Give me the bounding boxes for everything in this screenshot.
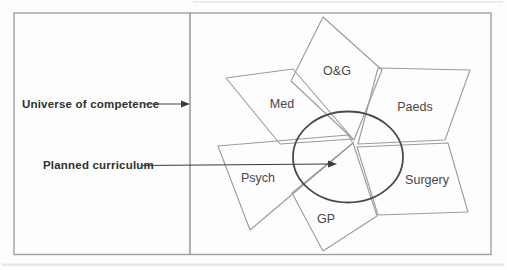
scan-artifact-bottom: [2, 264, 504, 266]
curriculum-arrow-head-icon: [328, 161, 337, 168]
figure-canvas: O&G Med Paeds Psych Surgery GP Universe …: [0, 0, 507, 270]
curriculum-arrow-line: [141, 164, 329, 166]
shape-oandg: [291, 17, 382, 140]
shape-label-gp: GP: [317, 212, 335, 226]
competence-diagram: O&G Med Paeds Psych Surgery GP Universe …: [0, 0, 507, 270]
curriculum-annotation: Planned curriculum: [43, 159, 154, 171]
shape-label-surgery: Surgery: [405, 173, 450, 187]
universe-annotation-label: Universe of competence: [22, 98, 159, 110]
shape-label-oandg: O&G: [323, 64, 351, 78]
planned-curriculum-circle: [293, 112, 403, 203]
specialty-shapes: [218, 17, 470, 251]
curriculum-arrow: [141, 161, 337, 168]
shape-label-med: Med: [270, 97, 294, 111]
universe-arrow-head-icon: [181, 101, 190, 108]
curriculum-annotation-label: Planned curriculum: [43, 159, 154, 171]
shape-label-paeds: Paeds: [397, 100, 432, 114]
scan-artifact-top: [193, 1, 503, 3]
figure-frame-rect: [14, 13, 491, 255]
universe-annotation: Universe of competence: [22, 98, 159, 110]
shape-label-psych: Psych: [241, 171, 275, 185]
